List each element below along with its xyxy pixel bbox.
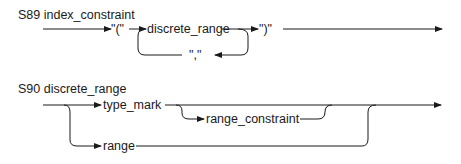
terminal-open-paren: "(" xyxy=(111,22,124,36)
nonterminal-type-mark: type_mark xyxy=(103,98,162,112)
syntax-diagram-canvas: S89 index_constraint "(" discrete_range … xyxy=(0,0,461,164)
nonterminal-range: range xyxy=(103,139,135,153)
nonterminal-discrete-range: discrete_range xyxy=(147,22,230,36)
range-constraint-return xyxy=(300,105,332,119)
diagram-s90-discrete-range: S90 discrete_range type_mark range_const… xyxy=(18,82,441,153)
nonterminal-range-constraint: range_constraint xyxy=(206,112,300,126)
diagram-s89-index-constraint: S89 index_constraint "(" discrete_range … xyxy=(18,8,442,62)
arrow-to-range-constraint xyxy=(176,105,204,119)
terminal-comma: "," xyxy=(189,48,201,62)
arrow-to-range xyxy=(64,105,101,146)
diagram-title-s89: S89 index_constraint xyxy=(18,8,135,22)
diagram-title-s90: S90 discrete_range xyxy=(18,82,126,96)
terminal-close-paren: ")" xyxy=(259,22,272,36)
